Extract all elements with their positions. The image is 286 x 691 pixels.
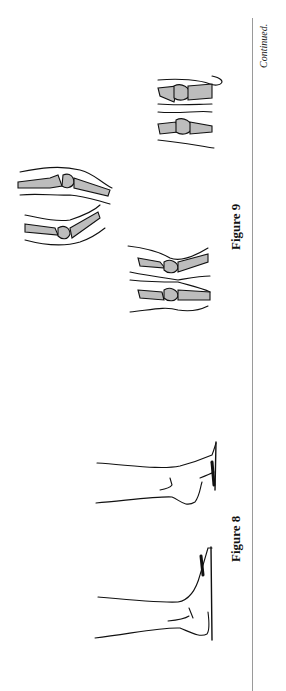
figure-9-knee-b (25, 205, 105, 245)
figure-9-knee-c (128, 246, 210, 312)
figure-artwork (0, 0, 286, 691)
figure-9-knee-d (158, 76, 222, 148)
figure-9-knee-a (18, 167, 112, 204)
figure-8-foot-lower (95, 547, 212, 640)
figure-8-foot-upper (96, 442, 216, 504)
